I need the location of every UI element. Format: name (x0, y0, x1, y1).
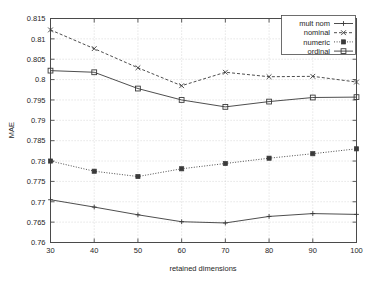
legend-label-ordinal: ordinal (307, 47, 330, 56)
data-point-marker (223, 161, 227, 165)
x-tick-label: 50 (134, 246, 142, 255)
x-tick-label: 90 (309, 246, 317, 255)
x-axis-title: retained dimensions (169, 264, 236, 273)
x-tick-label: 40 (90, 246, 98, 255)
data-point-marker (136, 174, 140, 178)
data-point-marker (179, 83, 184, 88)
x-tick-label: 100 (350, 246, 363, 255)
y-tick-label: 0.79 (31, 116, 46, 125)
series-ordinal (48, 68, 359, 109)
data-point-marker (267, 156, 271, 160)
data-point-marker (92, 169, 96, 173)
legend-label-numeric: numeric (303, 38, 330, 47)
x-axis-tick-labels: 30405060708090100 (46, 246, 362, 255)
x-tick-label: 60 (177, 246, 185, 255)
data-point-marker (180, 167, 184, 171)
y-tick-label: 0.785 (27, 136, 46, 145)
y-tick-label: 0.765 (27, 218, 46, 227)
line-chart: 0.760.7650.770.7750.780.7850.790.7950.80… (0, 0, 376, 281)
y-tick-label: 0.81 (31, 35, 46, 44)
y-tick-label: 0.775 (27, 177, 46, 186)
data-point-marker (48, 159, 52, 163)
data-point-marker (136, 65, 141, 70)
x-tick-label: 30 (46, 246, 54, 255)
chart-container: 0.760.7650.770.7750.780.7850.790.7950.80… (0, 0, 376, 281)
y-tick-label: 0.795 (27, 96, 46, 105)
data-point-marker (92, 205, 97, 210)
data-series-group (48, 28, 359, 226)
x-tick-label: 70 (221, 246, 229, 255)
y-tick-label: 0.76 (31, 238, 46, 247)
y-tick-label: 0.805 (27, 55, 46, 64)
y-tick-label: 0.77 (31, 198, 46, 207)
data-point-marker (354, 147, 358, 151)
x-tick-label: 80 (265, 246, 273, 255)
series-path (51, 200, 357, 223)
y-axis-tick-labels: 0.760.7650.770.7750.780.7850.790.7950.80… (27, 14, 46, 247)
data-point-marker (92, 46, 97, 51)
series-numeric (48, 147, 358, 179)
data-point-marker (311, 152, 315, 156)
data-point-marker (310, 211, 315, 216)
series-path (51, 71, 357, 107)
data-point-marker (354, 212, 359, 217)
legend-label-mult-nom: mult nom (299, 19, 330, 28)
y-tick-label: 0.8 (35, 75, 45, 84)
data-point-marker (136, 212, 141, 217)
y-tick-label: 0.815 (27, 14, 46, 23)
chart-legend: mult nomnominalnumericordinal (282, 16, 356, 56)
y-tick-label: 0.78 (31, 157, 46, 166)
legend-label-nominal: nominal (304, 28, 331, 37)
y-axis-title: MAE (7, 122, 16, 138)
data-point-marker (223, 221, 228, 226)
data-point-marker (267, 214, 272, 219)
data-point-marker (179, 219, 184, 224)
data-point-marker (341, 40, 345, 44)
